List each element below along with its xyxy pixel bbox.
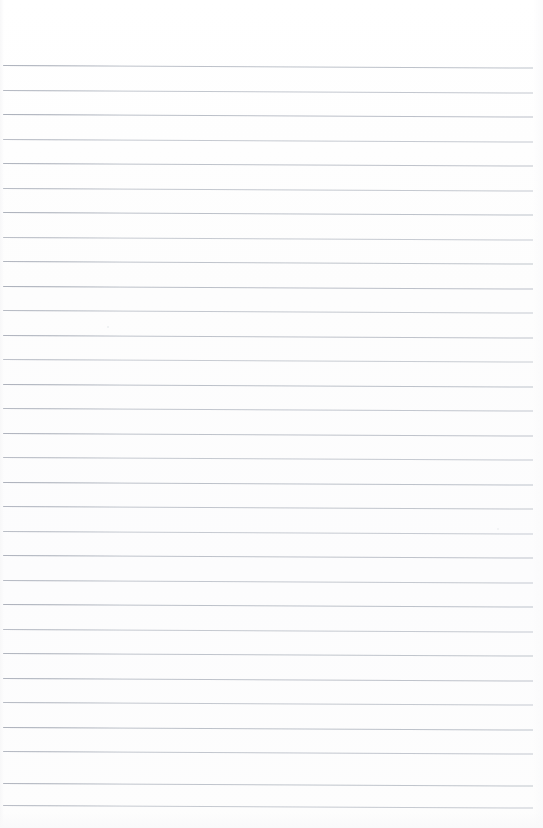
rule-line: [3, 805, 533, 809]
rule-line: [3, 114, 533, 118]
rule-line: [3, 629, 533, 633]
rule-line: [3, 139, 533, 143]
rule-line: [3, 261, 533, 265]
rule-line: [3, 506, 533, 510]
rule-line: [3, 384, 533, 388]
rule-line: [3, 531, 533, 535]
rule-line: [3, 433, 533, 437]
ruled-lines-group: [0, 0, 543, 828]
notebook-page: [0, 0, 543, 828]
rule-line: [3, 727, 533, 731]
rule-line: [3, 188, 533, 192]
rule-line: [3, 237, 533, 241]
rule-line: [3, 212, 533, 216]
rule-line: [3, 702, 533, 706]
rule-line: [3, 751, 533, 755]
rule-line: [3, 163, 533, 167]
rule-line: [3, 580, 533, 584]
rule-line: [3, 653, 533, 657]
rule-line: [3, 555, 533, 559]
rule-line: [3, 335, 533, 339]
rule-line: [3, 482, 533, 486]
rule-line: [3, 359, 533, 363]
rule-line: [3, 310, 533, 314]
rule-line: [3, 457, 533, 461]
rule-line: [3, 783, 533, 787]
rule-line: [3, 678, 533, 682]
rule-line: [3, 90, 533, 94]
rule-line: [3, 286, 533, 290]
rule-line: [3, 408, 533, 412]
rule-line: [3, 604, 533, 608]
rule-line: [3, 65, 533, 69]
